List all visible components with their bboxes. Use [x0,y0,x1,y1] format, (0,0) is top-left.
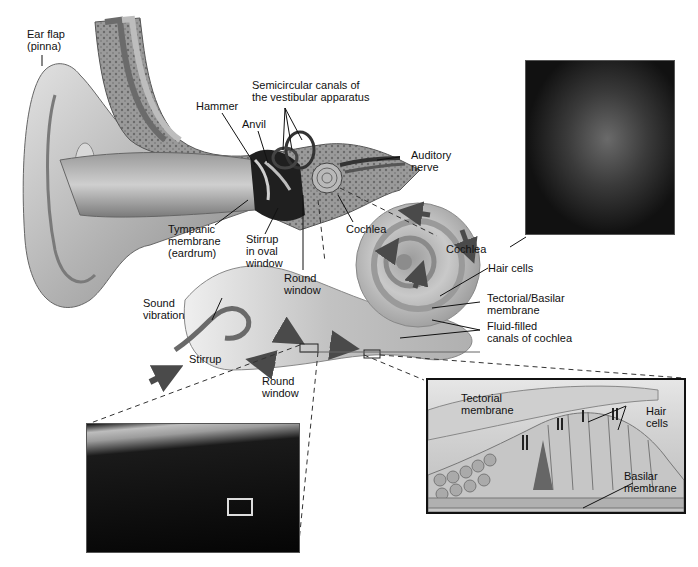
label-stirrup: Stirrup [189,353,221,365]
label-line: Round [262,375,299,387]
label-line: Hair cells [488,262,533,274]
label-line: cells [646,417,668,429]
label-line: Stirrup [189,353,221,365]
label-inset-tectorial-membrane: Tectorial membrane [461,392,514,416]
hair-cells-micrograph [525,60,675,235]
label-stirrup-oval-window: Stirrup in oval window [246,233,283,269]
label-line: Tectorial [461,392,514,404]
label-line: membrane [487,304,565,316]
label-line: Ear flap [27,28,65,40]
label-line: window [284,284,321,296]
label-line: membrane [168,235,221,247]
label-tectorial-basilar: Tectorial/Basilar membrane [487,292,565,316]
highlight-rectangle [227,498,253,516]
ear-anatomy-figure: Ear flap (pinna) Hammer Anvil Semicircul… [0,0,698,567]
label-line: Fluid-filled [487,320,572,332]
label-ear-flap: Ear flap (pinna) [27,28,65,52]
label-line: membrane [624,482,677,494]
label-anvil: Anvil [242,118,266,130]
label-inset-hair-cells: Hair cells [646,405,668,429]
label-line: canals of cochlea [487,332,572,344]
label-line: membrane [461,404,514,416]
label-line: in oval [246,245,283,257]
label-auditory-nerve: Auditory nerve [411,149,451,173]
label-semicircular-canals: Semicircular canals of the vestibular ap… [252,79,369,103]
label-line: Stirrup [246,233,283,245]
label-round-window-top: Round window [284,272,321,296]
label-line: (eardrum) [168,247,221,259]
label-hammer: Hammer [196,100,238,112]
label-line: the vestibular apparatus [252,91,369,103]
label-line: Auditory [411,149,451,161]
label-line: Basilar [624,470,677,482]
label-line: Hammer [196,100,238,112]
label-round-window-bottom: Round window [262,375,299,399]
label-line: Semicircular canals of [252,79,369,91]
label-line: Round [284,272,321,284]
label-line: Tympanic [168,223,221,235]
label-cochlea: Cochlea [346,223,386,235]
label-line: window [262,387,299,399]
label-line: window [246,257,283,269]
label-line: (pinna) [27,40,65,52]
label-tympanic-membrane: Tympanic membrane (eardrum) [168,223,221,259]
cochlea-section-micrograph [86,423,300,553]
label-fluid-filled-canals: Fluid-filled canals of cochlea [487,320,572,344]
label-line: Tectorial/Basilar [487,292,565,304]
label-line: Cochlea [446,243,486,255]
label-hair-cells: Hair cells [488,262,533,274]
label-line: Sound [143,297,185,309]
label-inset-basilar-membrane: Basilar membrane [624,470,677,494]
label-line: Anvil [242,118,266,130]
label-line: Hair [646,405,668,417]
label-sound-vibration: Sound vibration [143,297,185,321]
label-cochlea-unrolled: Cochlea [446,243,486,255]
label-line: Cochlea [346,223,386,235]
label-line: vibration [143,309,185,321]
label-line: nerve [411,161,451,173]
